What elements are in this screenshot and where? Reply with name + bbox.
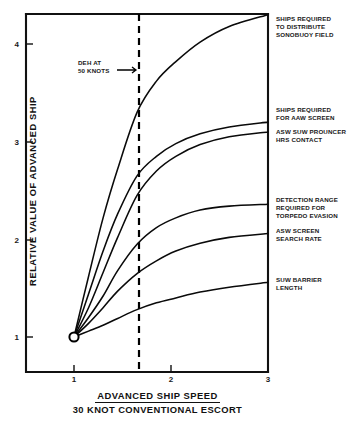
y-tick-label-3: 3 (15, 138, 20, 147)
y-tick-label-1: 1 (15, 333, 20, 342)
y-tick-label-2: 2 (15, 236, 20, 245)
series-curve-ships-required-for-aaw-screen (74, 122, 268, 337)
x-axis-label-denominator: 30 KNOT CONVENTIONAL ESCORT (40, 404, 275, 415)
y-tick-label-4: 4 (15, 40, 20, 49)
x-tick-label-1: 1 (72, 375, 77, 384)
chart-figure: 4 3 2 1 1 2 3 RELATIVE VALUE OF ADVANCED… (0, 0, 353, 423)
series-label-asw-search-rate: ASW SCREEN SEARCH RATE (276, 227, 322, 243)
series-curve-suw-barrier-length (74, 282, 268, 337)
y-axis-label: RELATIVE VALUE OF ADVANCED SHIP (28, 91, 38, 291)
x-tick-label-2: 2 (169, 375, 174, 384)
series-label-sub-pouncer: ASW SUW PROUNCER HRS CONTACT (276, 128, 346, 144)
series-label-aaw-screen: SHIPS REQUIRED FOR AAW SCREEN (276, 106, 335, 122)
x-tick-label-3: 3 (266, 375, 271, 384)
series-label-suw-barrier: SUW BARRIER LENGTH (276, 276, 322, 292)
series-label-sonobuoy-field: SHIPS REQUIRED TO DISTRIBUTE SONOBUOY FI… (276, 15, 334, 40)
deh-annotation-label: DEH AT 50 KNOTS (78, 59, 109, 76)
deh-annotation-arrow (117, 67, 136, 73)
chart-axes (26, 14, 268, 372)
x-axis-label-numerator: ADVANCED SHIP SPEED (95, 390, 220, 403)
x-axis-label-block: ADVANCED SHIP SPEED 30 KNOT CONVENTIONAL… (40, 385, 275, 415)
origin-point-marker (69, 332, 78, 341)
series-label-torpedo-evasion: DETECTION RANGE REQUIRED FOR TORPEDO EVA… (276, 196, 338, 221)
series-curve-asw-sub-pouncer-hrs-contact (74, 132, 268, 337)
